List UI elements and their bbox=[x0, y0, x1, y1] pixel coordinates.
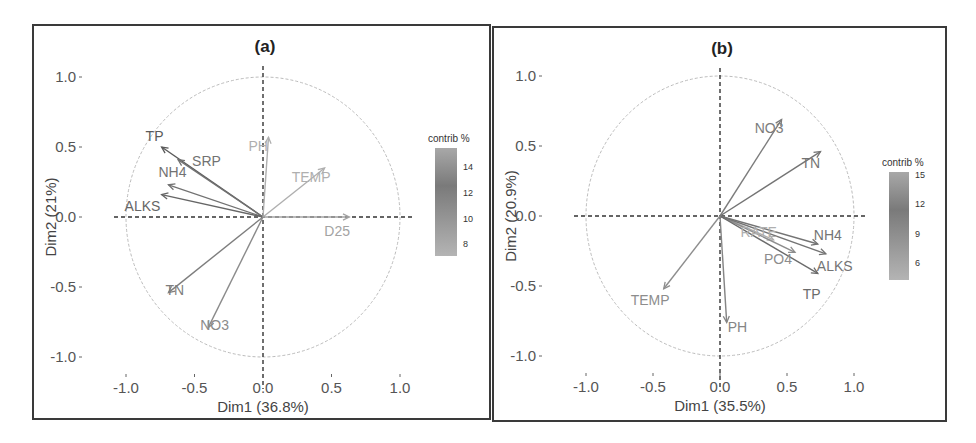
legend-title: contrib % bbox=[882, 157, 924, 168]
y-tick-label: -1.0 bbox=[50, 348, 76, 365]
legend-tick-label: 6 bbox=[915, 258, 920, 268]
y-tick-label: 0.5 bbox=[515, 137, 536, 154]
variable-label: D25 bbox=[324, 223, 350, 239]
legend-colorbar bbox=[435, 148, 457, 256]
variable-label: TEMP bbox=[631, 292, 670, 308]
variable-arrow-d25 bbox=[263, 214, 349, 220]
x-tick-label: 0.0 bbox=[710, 378, 731, 395]
chart-title: (a) bbox=[255, 37, 276, 56]
legend-tick-label: 9 bbox=[915, 229, 920, 239]
variable-label: TN bbox=[165, 282, 184, 298]
legend-tick-label: 10 bbox=[463, 214, 473, 224]
variable-label: TEMP bbox=[292, 169, 331, 185]
x-tick-label: 0.5 bbox=[321, 379, 342, 396]
x-tick-label: 0.0 bbox=[253, 379, 274, 396]
y-tick-label: 1.0 bbox=[515, 67, 536, 84]
variable-arrow-no3 bbox=[208, 217, 263, 328]
variable-label: PH bbox=[248, 138, 267, 154]
pca-plot-b: (b)1.00.50.0-0.5-1.0-1.0-0.50.00.51.0Dim… bbox=[494, 28, 949, 424]
legend-tick-label: 8 bbox=[463, 239, 468, 249]
x-tick-label: -1.0 bbox=[113, 379, 139, 396]
x-tick-label: 0.5 bbox=[777, 378, 798, 395]
variable-label: NH4 bbox=[814, 227, 842, 243]
chart-panel-b: (b)1.00.50.0-0.5-1.0-1.0-0.50.00.51.0Dim… bbox=[492, 26, 947, 422]
x-axis-label: Dim1 (35.5%) bbox=[674, 397, 766, 414]
variable-label: PH bbox=[728, 319, 747, 335]
legend-tick-label: 12 bbox=[463, 188, 473, 198]
pca-plot-a: (a)1.00.50.0-0.5-1.0-1.0-0.50.00.51.0Dim… bbox=[34, 26, 493, 422]
variable-label: TP bbox=[803, 286, 821, 302]
variable-label: ALKS bbox=[817, 258, 853, 274]
variable-arrow-ph bbox=[720, 216, 729, 322]
contrib-legend: contrib %1412108 bbox=[428, 133, 473, 256]
x-tick-label: -0.5 bbox=[182, 379, 208, 396]
variable-label: RATE bbox=[741, 224, 777, 240]
legend-colorbar bbox=[889, 172, 909, 280]
variable-label: NO3 bbox=[200, 317, 229, 333]
x-tick-label: 1.0 bbox=[390, 379, 411, 396]
y-tick-label: 1.0 bbox=[55, 68, 76, 85]
y-tick-label: 0.5 bbox=[55, 138, 76, 155]
y-tick-label: -0.5 bbox=[50, 278, 76, 295]
x-axis-label: Dim1 (36.8%) bbox=[217, 398, 309, 415]
variable-label: TN bbox=[802, 155, 821, 171]
y-axis-label: Dim2 (20.9%) bbox=[502, 170, 519, 262]
legend-tick-label: 12 bbox=[915, 199, 925, 209]
variable-label: ALKS bbox=[125, 198, 161, 214]
variable-label: SRP bbox=[192, 153, 221, 169]
variable-arrow-alks bbox=[162, 193, 263, 217]
legend-tick-label: 14 bbox=[463, 162, 473, 172]
y-tick-label: -0.5 bbox=[510, 277, 536, 294]
x-tick-label: -0.5 bbox=[640, 378, 666, 395]
variable-arrow-temp bbox=[664, 216, 720, 289]
variable-label: PO4 bbox=[764, 251, 792, 267]
y-tick-label: -1.0 bbox=[510, 347, 536, 364]
y-axis-label: Dim2 (21%) bbox=[42, 177, 59, 256]
variable-arrow-nh4 bbox=[168, 184, 263, 217]
variable-label: NO3 bbox=[755, 120, 784, 136]
x-tick-label: -1.0 bbox=[573, 378, 599, 395]
legend-title: contrib % bbox=[428, 133, 470, 144]
x-tick-label: 1.0 bbox=[844, 378, 865, 395]
contrib-legend: contrib %151296 bbox=[882, 157, 925, 280]
legend-tick-label: 15 bbox=[915, 170, 925, 180]
variable-label: NH4 bbox=[158, 164, 186, 180]
variable-label: TP bbox=[146, 128, 164, 144]
chart-panel-a: (a)1.00.50.0-0.5-1.0-1.0-0.50.00.51.0Dim… bbox=[32, 24, 491, 420]
chart-title: (b) bbox=[711, 39, 733, 58]
